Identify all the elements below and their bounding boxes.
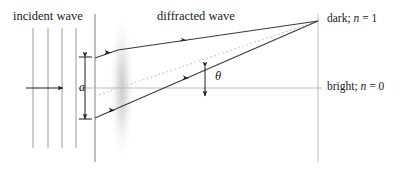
incident-wave-label: incident wave — [13, 10, 83, 23]
bright-fringe-label: bright; n = 0 — [327, 81, 384, 93]
dark-fringe-text: dark; — [327, 12, 354, 24]
angle-theta-label: θ — [215, 70, 221, 83]
bright-fringe-text: bright; — [327, 80, 361, 92]
diffracted-wave-label: diffracted wave — [157, 10, 235, 23]
dark-order-value: = 1 — [359, 12, 377, 24]
slit-width-label: a — [79, 81, 85, 93]
bright-order-value: = 0 — [366, 80, 384, 92]
diffraction-figure: incident wave diffracted wave dark; n = … — [0, 0, 404, 176]
dark-fringe-label: dark; n = 1 — [327, 13, 377, 25]
